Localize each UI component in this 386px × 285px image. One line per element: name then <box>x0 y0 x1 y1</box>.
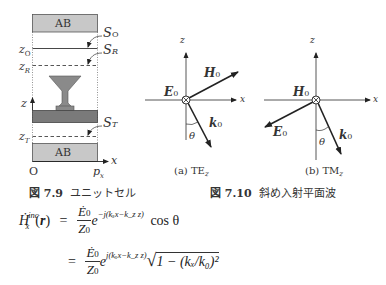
te-z-axis-label: z <box>180 35 185 45</box>
tm-h-label: H0 <box>293 85 309 99</box>
tm-e-label: E0 <box>273 125 287 139</box>
equation-line-1: Ḣincx(r) = Ė0Z0e−j(kₓx−k_z z) cos θ <box>19 205 179 238</box>
fraction-e0-z0: Ė0Z0 <box>77 205 91 238</box>
te-theta-label: θ <box>189 130 195 141</box>
figures-canvas <box>0 0 386 285</box>
unit-cell-diagram <box>33 15 109 162</box>
equation-line-2: = Ė0Z0ej(kₓx−k_z z)√1 − (kₓ/k₀)² <box>62 246 219 279</box>
tm-caption: (b) TMz <box>305 165 343 178</box>
origin-label: O <box>29 165 38 178</box>
figure-7-10-caption: 図 7.10 斜め入射平面波 <box>210 184 336 200</box>
te-h-label: H0 <box>204 66 220 80</box>
scatterer-element <box>49 76 81 107</box>
s-t-label: ST <box>103 115 117 130</box>
s-r-label: SR <box>103 42 118 57</box>
ab-bottom-label: AB <box>55 146 71 159</box>
z-axis-label: z <box>21 97 27 110</box>
tm-z-axis-label: z <box>310 35 315 45</box>
z-o-label: zO <box>19 43 31 58</box>
z-t-label: zT <box>19 130 29 145</box>
x-axis-label: x <box>111 154 117 167</box>
tm-x-axis-label: x <box>373 94 378 104</box>
tm-k-label: k0 <box>339 128 352 142</box>
te-k-label: k0 <box>209 116 222 130</box>
te-x-axis-label: x <box>240 94 245 104</box>
ab-top-label: AB <box>55 17 71 30</box>
substrate-slab <box>33 111 98 123</box>
te-caption: (a) TEz <box>174 165 209 178</box>
figure-7-9-caption: 図 7.9 ユニットセル <box>29 184 136 200</box>
te-e-label: E0 <box>164 85 178 99</box>
z-r-label: zR <box>19 60 30 75</box>
tm-diagram <box>264 53 370 160</box>
s-o-label: SO <box>103 25 118 40</box>
tm-theta-label: θ <box>319 136 325 147</box>
period-label: px <box>93 165 104 180</box>
e-vector <box>265 102 313 127</box>
sqrt-expression: 1 − (kₓ/k₀)² <box>156 252 218 269</box>
